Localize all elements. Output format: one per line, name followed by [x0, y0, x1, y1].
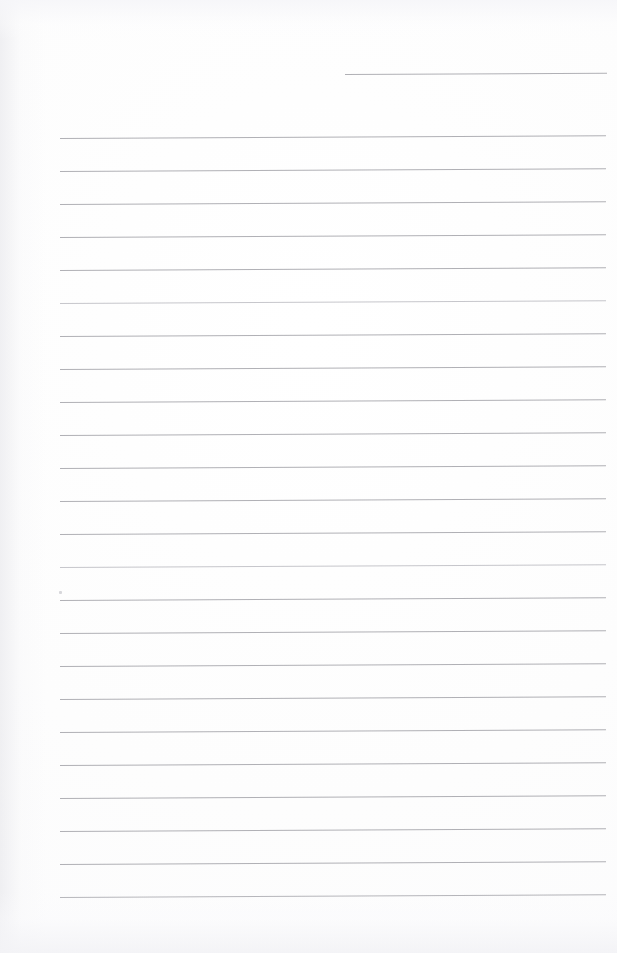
scanned-notepad-page — [0, 0, 617, 953]
ruled-line — [60, 795, 606, 799]
ruled-line — [60, 201, 606, 205]
ruled-line — [60, 465, 606, 469]
ruled-line — [60, 300, 606, 304]
ruled-line — [60, 828, 606, 832]
ruled-line — [60, 399, 606, 403]
ruled-line — [60, 432, 606, 436]
ruled-line — [60, 135, 606, 139]
ruled-line — [60, 630, 606, 634]
ruled-line — [60, 267, 606, 271]
ruled-line — [60, 729, 606, 733]
ruled-line — [60, 366, 606, 370]
ruled-line — [60, 564, 606, 568]
ruled-line — [60, 861, 606, 865]
ruled-line — [60, 531, 606, 535]
ruled-line — [60, 333, 606, 337]
ruled-line — [60, 597, 606, 601]
ruled-line — [60, 762, 606, 766]
ruled-line-partial — [345, 73, 607, 75]
ruled-line — [60, 894, 606, 898]
ruled-line — [60, 696, 606, 700]
ruled-line — [60, 234, 606, 238]
ruled-line — [60, 498, 606, 502]
ruled-writing-area — [0, 0, 617, 953]
paper-speck-artifact — [59, 591, 62, 594]
ruled-line — [60, 663, 606, 667]
ruled-line — [60, 168, 606, 172]
